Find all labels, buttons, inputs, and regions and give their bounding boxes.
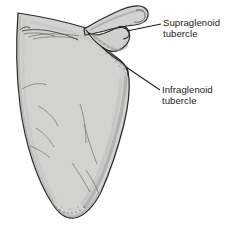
label-supraglenoid-line2: tubercle: [163, 28, 220, 39]
label-supraglenoid-tubercle: Supraglenoid tubercle: [163, 17, 220, 40]
label-infraglenoid-tubercle: Infraglenoid tubercle: [162, 84, 213, 107]
label-supraglenoid-line1: Supraglenoid: [163, 17, 220, 28]
leader-line-infraglenoid: [126, 67, 160, 90]
label-infraglenoid-line2: tubercle: [162, 95, 213, 106]
leader-lines: [126, 24, 161, 90]
label-infraglenoid-line1: Infraglenoid: [162, 84, 213, 95]
scapula-figure: Supraglenoid tubercle Infraglenoid tuber…: [0, 0, 231, 230]
